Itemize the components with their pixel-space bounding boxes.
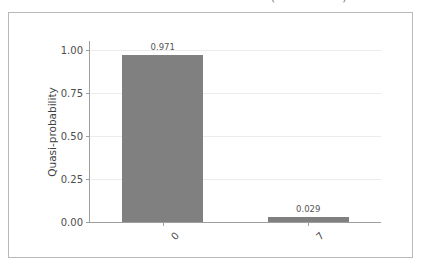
bar-value-label: 0.971 [151,42,175,52]
x-tick-mark [308,222,309,226]
clipped-header-text: — —— ——— — ————— —— ——— ———— (—— — — —) [6,0,347,4]
y-tick-label: 0.00 [61,217,83,228]
y-tick-mark [86,222,90,223]
y-axis-label: Quasi-probability [45,41,59,223]
y-tick-mark [86,136,90,137]
y-tick-mark [86,93,90,94]
y-tick-label: 0.25 [61,173,83,184]
figure-card: Quasi-probability 0.000.250.500.751.00 0… [8,12,413,258]
plot-area: 0.000.250.500.751.00 0.9710.029 07 [89,41,381,223]
y-tick-mark [86,179,90,180]
bar: 0.971 [122,55,203,222]
clipped-header-strip: — —— ——— — ————— —— ——— ———— (—— — — —) [0,0,421,9]
x-tick-label: 0 [169,230,181,242]
x-tick-label: 7 [314,230,326,242]
bar-value-label: 0.029 [296,204,320,214]
y-tick-label: 0.50 [61,130,83,141]
y-tick-mark [86,50,90,51]
y-tick-label: 0.75 [61,87,83,98]
x-tick-mark [163,222,164,226]
y-tick-label: 1.00 [61,44,83,55]
gridline [90,50,381,51]
